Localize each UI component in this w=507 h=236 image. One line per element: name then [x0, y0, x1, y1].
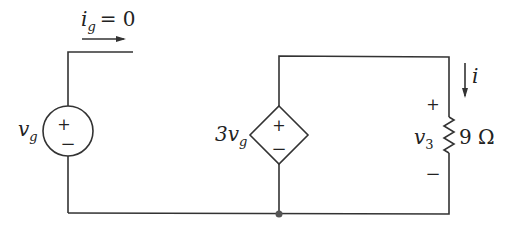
vg-plus: + — [57, 115, 70, 134]
v3-plus: + — [426, 95, 439, 114]
wire-bottom — [68, 153, 449, 214]
v3-minus: − — [425, 163, 440, 184]
arrowhead-ig-icon — [116, 36, 126, 42]
junction-node — [276, 211, 283, 218]
v3-label: v3 — [414, 125, 434, 152]
dep-source-label: 3vg — [215, 122, 247, 149]
i-label: i — [472, 64, 478, 88]
vg-label: vg — [18, 117, 38, 144]
wire-top-right — [279, 56, 449, 117]
vg-minus: − — [60, 133, 75, 154]
circuit-diagram: ig= 0 + − vg + − 3vg + − v3 9 Ω i — [0, 0, 507, 236]
resistor-9ohm — [444, 117, 454, 153]
resistor-value: 9 Ω — [459, 125, 495, 149]
ig-label: ig= 0 — [81, 7, 136, 34]
dep-plus: + — [272, 116, 285, 135]
wire-left-top — [68, 52, 133, 106]
arrowhead-i-icon — [462, 88, 468, 98]
dep-minus: − — [271, 138, 286, 159]
